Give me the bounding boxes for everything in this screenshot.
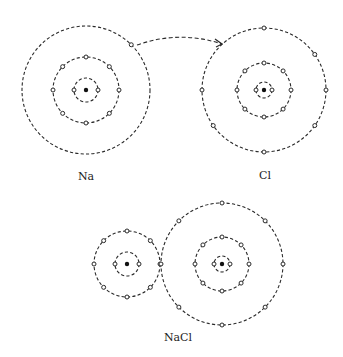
electron-icon <box>247 262 251 266</box>
electron-icon <box>84 121 88 125</box>
electron-icon <box>159 262 163 266</box>
electron-icon <box>281 107 285 111</box>
electron-icon <box>281 262 285 266</box>
electron-icon <box>263 219 267 223</box>
electron-icon <box>102 285 106 289</box>
electron-icon <box>281 69 285 73</box>
electron-icon <box>84 55 88 59</box>
cl-label: Cl <box>259 169 271 182</box>
electron-icon <box>61 111 65 115</box>
cl-ion <box>159 201 285 327</box>
electron-icon <box>211 124 215 128</box>
electron-icon <box>51 88 55 92</box>
electron-icon <box>262 150 266 154</box>
electron-icon <box>117 88 121 92</box>
electron-icon <box>313 52 317 56</box>
electron-icon <box>129 43 133 47</box>
electron-icon <box>148 239 152 243</box>
electron-icon <box>289 88 293 92</box>
electron-icon <box>96 88 100 92</box>
electron-icon <box>201 281 205 285</box>
electron-icon <box>243 107 247 111</box>
nacl-formation-diagram <box>0 0 343 357</box>
electron-icon <box>125 295 129 299</box>
electron-icon <box>107 111 111 115</box>
electron-icon <box>212 262 216 266</box>
electron-icon <box>137 262 141 266</box>
electron-icon <box>92 262 96 266</box>
electron-icon <box>270 88 274 92</box>
electron-icon <box>220 201 224 205</box>
electron-icon <box>102 239 106 243</box>
electron-icon <box>61 65 65 69</box>
electron-icon <box>254 88 258 92</box>
nucleus-icon <box>84 88 88 92</box>
na-ion <box>92 229 162 299</box>
electron-icon <box>220 235 224 239</box>
electron-icon <box>201 243 205 247</box>
electron-transfer-arrow <box>137 37 222 45</box>
nucleus-icon <box>262 88 266 92</box>
electron-icon <box>263 305 267 309</box>
electron-icon <box>262 115 266 119</box>
electron-icon <box>243 69 247 73</box>
electron-icon <box>200 88 204 92</box>
electron-icon <box>193 262 197 266</box>
electron-icon <box>148 285 152 289</box>
electron-icon <box>324 88 328 92</box>
electron-icon <box>177 305 181 309</box>
nucleus-icon <box>125 262 129 266</box>
nucleus-icon <box>220 262 224 266</box>
electron-icon <box>113 262 117 266</box>
electron-icon <box>72 88 76 92</box>
electron-icon <box>125 229 129 233</box>
electron-icon <box>313 124 317 128</box>
electron-icon <box>262 26 266 30</box>
electron-icon <box>220 289 224 293</box>
electron-icon <box>235 88 239 92</box>
electron-icon <box>239 281 243 285</box>
na-atom <box>22 26 150 154</box>
electron-icon <box>177 219 181 223</box>
nacl-label: NaCl <box>164 331 192 344</box>
electron-icon <box>107 65 111 69</box>
electron-icon <box>262 61 266 65</box>
electron-icon <box>220 323 224 327</box>
atoms-layer <box>22 26 328 327</box>
electron-icon <box>228 262 232 266</box>
electron-icon <box>239 243 243 247</box>
na-label: Na <box>78 170 94 183</box>
